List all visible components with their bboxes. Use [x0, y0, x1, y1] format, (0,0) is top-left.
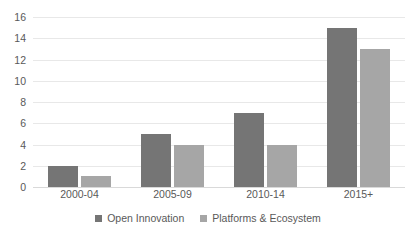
- bar: [141, 134, 171, 187]
- legend-item[interactable]: Platforms & Ecosystem: [200, 213, 321, 224]
- y-axis-tick-label: 6: [20, 118, 26, 129]
- plot-area: [33, 17, 405, 187]
- x-axis: 2000-042005-092010-142015+: [33, 189, 405, 207]
- bar: [234, 113, 264, 187]
- bar-group: [219, 17, 312, 187]
- y-axis: 1614121086420: [0, 17, 30, 187]
- y-axis-tick-label: 10: [14, 76, 26, 87]
- bar: [81, 176, 111, 187]
- y-axis-tick-label: 12: [14, 54, 26, 65]
- x-axis-tick-label: 2000-04: [33, 189, 126, 200]
- legend-swatch-icon: [200, 215, 207, 222]
- x-axis-tick-label: 2010-14: [219, 189, 312, 200]
- y-axis-tick-label: 2: [20, 161, 26, 172]
- legend-label: Open Innovation: [107, 213, 184, 224]
- y-axis-tick-label: 8: [20, 97, 26, 108]
- bar: [174, 145, 204, 188]
- bar: [48, 166, 78, 187]
- chart-legend: Open InnovationPlatforms & Ecosystem: [0, 213, 416, 224]
- bar: [267, 145, 297, 188]
- bar-chart: 1614121086420 2000-042005-092010-142015+…: [0, 0, 416, 242]
- legend-item[interactable]: Open Innovation: [95, 213, 184, 224]
- bar-group: [312, 17, 405, 187]
- legend-swatch-icon: [95, 215, 102, 222]
- bar: [360, 49, 390, 187]
- x-axis-tick-label: 2015+: [312, 189, 405, 200]
- y-axis-tick-label: 16: [14, 12, 26, 23]
- bars-layer: [33, 17, 405, 187]
- x-axis-tick-label: 2005-09: [126, 189, 219, 200]
- legend-label: Platforms & Ecosystem: [212, 213, 321, 224]
- bar-group: [126, 17, 219, 187]
- y-axis-tick-label: 0: [20, 182, 26, 193]
- bar-group: [33, 17, 126, 187]
- y-axis-tick-label: 4: [20, 139, 26, 150]
- bar: [327, 28, 357, 187]
- y-axis-tick-label: 14: [14, 33, 26, 44]
